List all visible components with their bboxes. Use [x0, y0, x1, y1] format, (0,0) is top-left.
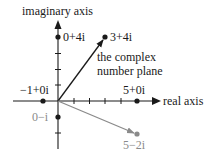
real-axis-arrow-icon: [152, 97, 161, 105]
label-3-plus-4i: 3+4i: [110, 30, 133, 44]
imaginary-axis-arrow-icon: [55, 20, 62, 29]
point-5-minus-2i: [134, 131, 139, 136]
complex-plane-diagram: imaginary axis real axis 0+4i 3+4i −1+0i…: [0, 0, 218, 160]
plane-note-line1: the complex: [97, 50, 156, 64]
label-5-plus-0i: 5+0i: [123, 83, 146, 97]
point-3-plus-4i: [102, 34, 107, 39]
label-minus-1-plus-0i: −1+0i: [20, 83, 50, 97]
point-minus-1-plus-0i: [40, 98, 45, 103]
label-0-plus-4i: 0+4i: [63, 30, 86, 44]
point-5-plus-0i: [134, 98, 139, 103]
x-axis-label: real axis: [163, 94, 204, 108]
label-5-minus-2i: 5−2i: [123, 138, 146, 152]
y-axis-label: imaginary axis: [22, 4, 93, 18]
vector-5-minus-2i: [58, 101, 134, 133]
point-0-minus-i: [55, 114, 60, 119]
label-0-minus-i: 0−i: [32, 110, 49, 124]
point-0-plus-4i: [55, 34, 60, 39]
plane-note-line2: number plane: [97, 64, 163, 78]
